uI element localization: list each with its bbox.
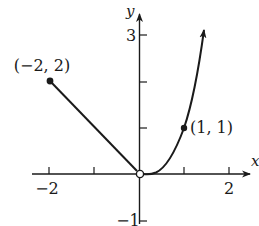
x-tick-label-2: 2 — [224, 179, 234, 198]
closed-dot-1-1 — [181, 125, 187, 131]
point-label-1-1: (1, 1) — [190, 118, 233, 137]
parabola-curve — [143, 30, 204, 174]
open-circle-origin — [136, 170, 143, 177]
y-tick-label-3: 3 — [126, 26, 136, 45]
point-label-neg2-2: (−2, 2) — [14, 56, 70, 75]
y-axis: y 3 −1 — [116, 2, 147, 226]
closed-dot-neg2-2 — [47, 78, 54, 85]
piecewise-function-graph: x −2 2 y 3 −1 (−2, 2) (1, 1) — [0, 0, 259, 226]
left-line-segment — [50, 81, 137, 171]
x-tick-label-neg2: −2 — [35, 179, 59, 198]
x-axis-label: x — [251, 152, 259, 170]
y-tick-label-neg1: −1 — [116, 211, 140, 226]
y-axis-label: y — [125, 2, 135, 20]
